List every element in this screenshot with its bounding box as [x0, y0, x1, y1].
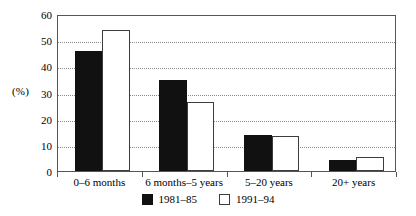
y-axis-tick-label: 10 [30, 141, 52, 152]
bar-series2 [187, 102, 215, 171]
chart-legend: 1981–851991–94 [0, 193, 416, 205]
legend-entry: 1991–94 [219, 193, 275, 205]
y-axis-unit-label: (%) [12, 85, 29, 97]
legend-entry: 1981–85 [142, 193, 198, 205]
x-axis-category-label: 20+ years [311, 176, 396, 189]
bar-series1 [75, 51, 103, 171]
legend-swatch-outlined-square-icon [219, 194, 230, 205]
bar-series1 [329, 160, 357, 171]
y-axis-tick-label: 60 [30, 10, 52, 21]
bar-series2 [356, 157, 384, 171]
bar-series1 [159, 80, 187, 171]
bar-chart-figure: (%) 0102030405060 0–6 months6 months–5 y… [0, 0, 416, 216]
legend-label: 1991–94 [236, 193, 275, 205]
legend-swatch-filled-square-icon [142, 194, 153, 205]
plot-area [57, 15, 396, 172]
y-axis-tick-label: 0 [30, 167, 52, 178]
bar-series1 [244, 135, 272, 171]
x-axis-category-label: 6 months–5 years [142, 176, 227, 189]
bar-series2 [102, 30, 130, 171]
x-axis-category-label: 0–6 months [57, 176, 142, 189]
x-axis-category-label: 5–20 years [227, 176, 312, 189]
y-axis-tick-label: 40 [30, 62, 52, 73]
bar-series2 [272, 136, 300, 171]
y-axis-tick-label: 50 [30, 36, 52, 47]
legend-label: 1981–85 [159, 193, 198, 205]
x-axis-tick [396, 172, 397, 177]
y-axis-tick-label: 20 [30, 115, 52, 126]
y-axis-tick-label: 30 [30, 89, 52, 100]
